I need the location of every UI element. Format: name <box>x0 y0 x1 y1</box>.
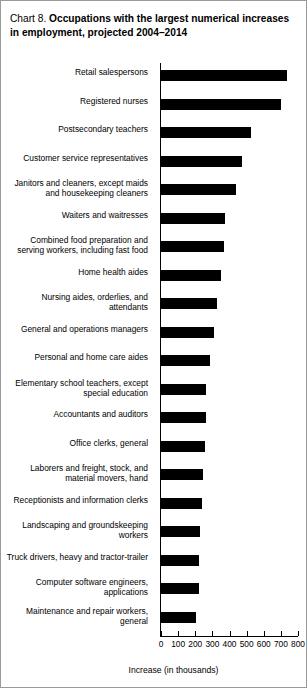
bar <box>161 99 281 110</box>
bar-row: Computer software engineers, application… <box>1 576 307 605</box>
bar-category-label: Combined food preparation and serving wo… <box>6 235 148 255</box>
bar-category-label: Computer software engineers, application… <box>6 577 148 597</box>
bar-category-label: Truck drivers, heavy and tractor-trailer <box>6 552 148 562</box>
bar <box>161 70 287 81</box>
bar <box>161 184 236 195</box>
bar <box>161 270 221 281</box>
bar <box>161 498 202 509</box>
bar <box>161 156 242 167</box>
x-axis-tick-label: 800 <box>286 639 307 649</box>
bar-row: Registered nurses <box>1 92 307 121</box>
bar-row: Postsecondary teachers <box>1 120 307 149</box>
bar <box>161 555 199 566</box>
bar-row: Personal and home care aides <box>1 348 307 377</box>
bar-row: Truck drivers, heavy and tractor-trailer <box>1 548 307 577</box>
x-axis-tick <box>195 631 196 636</box>
bar <box>161 384 206 395</box>
bar <box>161 469 203 480</box>
x-axis-title-text: Increase (in thousands) <box>129 665 219 675</box>
x-axis-tick <box>298 631 299 636</box>
bar-row: Retail salespersons <box>1 63 307 92</box>
bar-category-label: Receptionists and information clerks <box>6 495 148 505</box>
bar <box>161 526 200 537</box>
x-axis-line <box>160 636 298 637</box>
chart-page: Chart 8. Occupations with the largest nu… <box>0 0 307 688</box>
bar <box>161 355 210 366</box>
x-axis-tick <box>247 631 248 636</box>
bar-category-label: Home health aides <box>6 267 148 277</box>
bar-row: Landscaping and groundskeeping workers <box>1 519 307 548</box>
x-axis-tick <box>281 631 282 636</box>
bar <box>161 298 217 309</box>
bar-category-label: Laborers and freight, stock, and materia… <box>6 463 148 483</box>
bar-category-label: Waiters and waitresses <box>6 210 148 220</box>
bar-category-label: Personal and home care aides <box>6 352 148 362</box>
x-axis-tick <box>230 631 231 636</box>
bar-category-label: Landscaping and groundskeeping workers <box>6 520 148 540</box>
bar <box>161 241 224 252</box>
bar-category-label: Janitors and cleaners, except maids and … <box>6 178 148 198</box>
bar-category-label: Customer service representatives <box>6 153 148 163</box>
bar-category-label: Nursing aides, orderlies, and attendants <box>6 292 148 312</box>
bar <box>161 127 251 138</box>
bar-row: Office clerks, general <box>1 434 307 463</box>
y-axis-line <box>160 63 161 636</box>
bar-row: Combined food preparation and serving wo… <box>1 234 307 263</box>
bar-category-label: Accountants and auditors <box>6 409 148 419</box>
bar-row: General and operations managers <box>1 320 307 349</box>
bar-category-label: General and operations managers <box>6 324 148 334</box>
page-title: Chart 8. Occupations with the largest nu… <box>10 12 298 40</box>
bar <box>161 612 196 623</box>
x-axis-tick <box>264 631 265 636</box>
bar <box>161 412 206 423</box>
bar-category-label: Postsecondary teachers <box>6 124 148 134</box>
bar-row: Elementary school teachers, except speci… <box>1 377 307 406</box>
chart-title-text: Occupations with the largest numerical i… <box>10 13 289 38</box>
bar-category-label: Registered nurses <box>6 96 148 106</box>
bar-category-label: Retail salespersons <box>6 67 148 77</box>
plot-area: Retail salespersonsRegistered nursesPost… <box>1 63 307 635</box>
bar <box>161 213 225 224</box>
bar-row: Receptionists and information clerks <box>1 491 307 520</box>
x-axis-title: Increase (in thousands) <box>1 665 307 675</box>
bar-row: Janitors and cleaners, except maids and … <box>1 177 307 206</box>
bar <box>161 441 205 452</box>
bar <box>161 583 199 594</box>
bar-row: Nursing aides, orderlies, and attendants <box>1 291 307 320</box>
bar-row: Customer service representatives <box>1 149 307 178</box>
bar-row: Accountants and auditors <box>1 405 307 434</box>
bar-category-label: Office clerks, general <box>6 438 148 448</box>
bar-row: Laborers and freight, stock, and materia… <box>1 462 307 491</box>
x-axis-tick <box>178 631 179 636</box>
bar-category-label: Maintenance and repair workers, general <box>6 606 148 626</box>
bar-row: Home health aides <box>1 263 307 292</box>
bar-row: Waiters and waitresses <box>1 206 307 235</box>
bar <box>161 327 214 338</box>
x-axis-tick <box>161 631 162 636</box>
chart-number-label: Chart 8. <box>10 13 46 24</box>
bar-row: Maintenance and repair workers, general <box>1 605 307 634</box>
bar-category-label: Elementary school teachers, except speci… <box>6 378 148 398</box>
x-axis-tick <box>212 631 213 636</box>
